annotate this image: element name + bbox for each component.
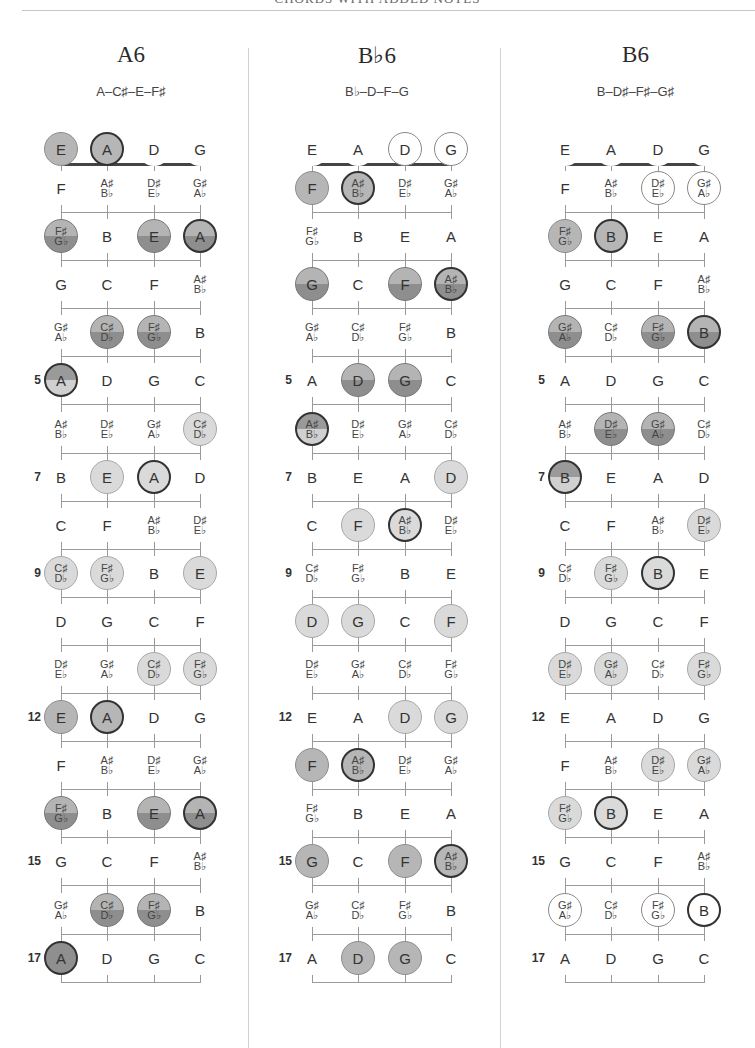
fret-line [61,260,201,261]
note-name: A [400,470,410,485]
note-label: G [641,941,675,975]
fret-line [312,837,452,838]
note-label: G♯A♭ [44,315,78,349]
note-name: A♭ [194,765,206,775]
note-name: D [102,951,113,966]
chord-spelling: B–D♯–F♯–G♯ [508,84,755,99]
note-name: E [560,142,570,157]
note-name: D [195,470,206,485]
fret-line [312,308,452,309]
chord-tone-marker: F♯G♭ [594,556,628,590]
note-label: F [137,844,171,878]
note-name: D [560,614,571,629]
note-name: B♭ [101,765,113,775]
note-name: E [353,470,363,485]
note-label: D [90,363,124,397]
note-name: B♭ [399,525,411,535]
note-label: A♯B♭ [687,267,721,301]
root-note-marker: B [641,556,675,590]
note-label: B [44,460,78,494]
note-label: F [641,267,675,301]
fret-line [312,212,452,213]
fret-line [312,597,452,598]
note-name: C [195,373,206,388]
note-name: G♭ [558,813,572,823]
note-name: A [56,373,66,388]
fret-line [565,212,705,213]
note-name: C [307,518,318,533]
note-label: G [183,700,217,734]
fret-line [61,645,201,646]
note-label: A [341,700,375,734]
note-name: A♭ [148,429,160,439]
root-note-marker: B [687,893,721,927]
note-label: G [44,844,78,878]
note-name: C [606,277,617,292]
fret-number: 12 [23,710,41,724]
fret-number: 15 [274,854,292,868]
note-label: D [641,700,675,734]
chord-tone-marker: F [295,748,329,782]
note-label: C♯D♭ [687,412,721,446]
note-name: G [559,854,571,869]
note-name: B♭ [352,765,364,775]
fret-line [312,645,452,646]
note-name: B [653,566,663,581]
fret-line [61,982,201,983]
fret-line [565,597,705,598]
chord-tone-marker: G♯A♭ [687,171,721,205]
chord-tone-marker: G♯A♭ [594,652,628,686]
fret-line [565,837,705,838]
note-name: D♭ [445,429,458,439]
chord-tone-marker: E [183,556,217,590]
note-name: C [400,614,411,629]
note-name: F [653,854,662,869]
note-name: D [102,373,113,388]
note-name: D♭ [148,669,161,679]
note-name: A [102,142,112,157]
note-name: E♭ [559,669,571,679]
note-name: E♭ [101,429,113,439]
note-label: A [388,460,422,494]
note-label: E [548,700,582,734]
note-name: A♭ [698,765,710,775]
chord-tone-marker: F [295,171,329,205]
note-name: E [653,229,663,244]
note-name: G♭ [604,573,618,583]
note-label: F [594,508,628,542]
note-name: G [101,614,113,629]
note-name: G [194,142,206,157]
fret-line [565,982,705,983]
fret-line [565,645,705,646]
note-name: A [699,229,709,244]
note-label: G [44,267,78,301]
note-label: A♯B♭ [44,412,78,446]
chord-tone-marker: D♯E♭ [548,652,582,686]
chord-tone-marker: D [388,132,422,166]
chord-tone-marker: G [434,132,468,166]
fret-line [312,549,452,550]
fret-line [61,837,201,838]
fret-line [565,549,705,550]
root-note-marker: B [594,796,628,830]
note-name: E [400,229,410,244]
root-note-marker: A [44,941,78,975]
note-name: F [653,277,662,292]
note-name: A [307,373,317,388]
fret-number: 7 [23,470,41,484]
note-name: A [195,229,205,244]
root-note-marker: A [137,460,171,494]
chord-tone-marker: G [434,700,468,734]
note-name: A♭ [559,332,571,342]
note-label: D [137,132,171,166]
note-name: E♭ [399,765,411,775]
note-label: D [687,460,721,494]
note-label: C [183,363,217,397]
note-name: A [653,470,663,485]
note-name: D [149,710,160,725]
note-label: C [341,267,375,301]
chord-tone-marker: G [295,844,329,878]
note-label: D [594,363,628,397]
fret-line [565,693,705,694]
note-name: G [148,373,160,388]
